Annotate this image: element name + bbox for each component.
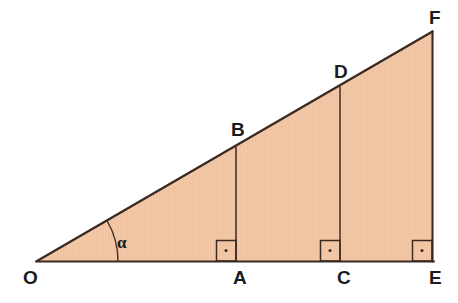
vertex-label-c: C (337, 268, 351, 287)
vertex-label-a: A (233, 268, 247, 287)
vertex-label-o: O (23, 268, 38, 287)
vertex-label-d: D (334, 62, 348, 81)
vertex-label-f: F (429, 8, 441, 27)
angle-label-alpha: α (117, 234, 127, 251)
vertex-label-b: B (231, 120, 245, 139)
geometry-diagram: O A B C D E F α (0, 0, 458, 303)
triangle-figure (0, 0, 458, 303)
vertex-label-e: E (429, 268, 442, 287)
